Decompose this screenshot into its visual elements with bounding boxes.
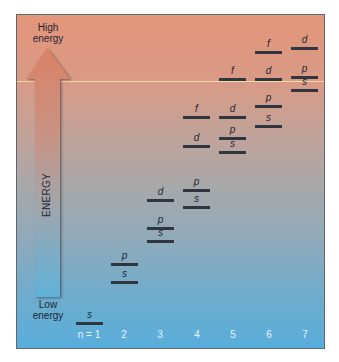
orbital-label-5p: p [219,125,246,135]
orbital-level-2s [111,281,138,284]
orbital-level-4d [183,145,210,148]
orbital-level-2p [111,263,138,266]
energy-axis-label: ENERGY [34,165,58,225]
orbital-level-6d [255,78,282,81]
orbital-label-6d: d [255,66,282,76]
shell-label-6: 6 [254,330,284,340]
high-energy-label: High energy [18,22,78,44]
shell-label-7: 7 [290,330,320,340]
high-energy-line2: energy [18,33,78,44]
orbital-label-2s: s [111,269,138,279]
orbital-label-6f: f [255,39,282,49]
orbital-level-6f [255,51,282,54]
low-energy-label: Low energy [18,299,78,321]
orbital-label-5d: d [219,104,246,114]
orbital-label-2p: p [111,251,138,261]
orbital-level-7s [291,89,318,92]
orbital-level-7d [291,47,318,50]
orbital-label-4p: p [183,177,210,187]
orbital-label-1s: s [76,310,103,320]
orbital-label-4s: s [183,194,210,204]
orbital-label-4d: d [183,133,210,143]
high-energy-line1: High [18,22,78,33]
orbital-level-1s [76,322,103,325]
orbital-label-5s: s [219,139,246,149]
shell-label-3: 3 [145,330,175,340]
orbital-label-3d: d [147,187,174,197]
shell-label-4: 4 [182,330,212,340]
orbital-label-4f: f [183,104,210,114]
orbital-level-5p [219,137,246,140]
orbital-level-6s [255,125,282,128]
orbital-level-5d [219,116,246,119]
orbital-level-3d [147,199,174,202]
orbital-level-4p [183,189,210,192]
orbital-label-6s: s [255,113,282,123]
orbital-level-7p [291,76,318,79]
energy-axis-text: ENERGY [41,173,52,217]
orbital-level-4s [183,206,210,209]
shell-label-2: 2 [109,330,139,340]
orbital-level-4f [183,116,210,119]
low-energy-line2: energy [18,310,78,321]
orbital-label-7d: d [291,35,318,45]
low-energy-line1: Low [18,299,78,310]
shell-label-1: n = 1 [69,330,109,340]
orbital-label-6p: p [255,93,282,103]
orbital-label-3p: p [147,215,174,225]
orbital-level-5s [219,151,246,154]
orbital-label-7p: p [291,64,318,74]
shell-label-5: 5 [218,330,248,340]
orbital-level-5f [219,78,246,81]
orbital-level-6p [255,105,282,108]
orbital-level-3p [147,227,174,230]
orbital-level-3s [147,240,174,243]
orbital-label-5f: f [219,66,246,76]
